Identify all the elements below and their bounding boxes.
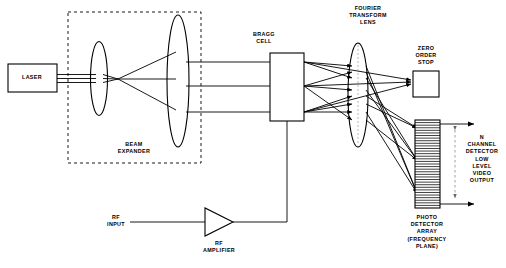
diffracted-ray-5 bbox=[304, 96, 352, 112]
diagram-canvas: LASER BEAM EXPANDER BRAGG CELL FOURIER T… bbox=[0, 0, 506, 268]
zero-order-ray-bot bbox=[304, 84, 411, 112]
zero-order-ray-top bbox=[304, 62, 411, 80]
beam-expander-label: BEAM EXPANDER bbox=[118, 141, 150, 155]
zero-order-stop-label: ZERO ORDER STOP bbox=[415, 45, 436, 67]
focus-ray-5 bbox=[366, 96, 417, 128]
diffracted-ray-3 bbox=[304, 72, 352, 86]
bragg-cell-box bbox=[270, 53, 304, 121]
rf-amplifier-label: RF AMPLIFIER bbox=[203, 240, 235, 254]
focus-ray-8 bbox=[366, 120, 417, 160]
fourier-transform-lens-label: FOURIER TRANSFORM LENS bbox=[349, 5, 387, 27]
diffracted-ray-6 bbox=[304, 104, 352, 112]
bragg-cell-label: BRAGG CELL bbox=[253, 31, 275, 45]
diffracted-ray-8 bbox=[304, 86, 352, 120]
rf-amplifier-triangle bbox=[205, 208, 233, 236]
focus-ray-3 bbox=[366, 78, 417, 160]
expander-converge-mid bbox=[103, 79, 118, 80]
zero-order-ray-mid bbox=[304, 82, 411, 86]
photo-detector-array-label: PHOTO DETECTOR ARRAY (FREQUENCY PLANE) bbox=[407, 214, 446, 250]
video-output-label: N CHANNEL DETECTOR LOW LEVEL VIDEO OUTPU… bbox=[466, 134, 498, 184]
zero-order-stop-box bbox=[413, 71, 439, 97]
diffracted-ray-4 bbox=[304, 86, 352, 90]
laser-label: LASER bbox=[22, 74, 42, 81]
expander-output-lens bbox=[167, 15, 189, 147]
expander-converge-bot bbox=[103, 79, 118, 83]
rf-input-label: RF INPUT bbox=[107, 214, 125, 228]
